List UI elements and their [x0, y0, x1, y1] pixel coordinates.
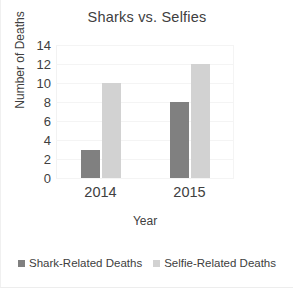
- y-axis-tick-label: 0: [29, 172, 51, 185]
- x-axis-title: Year: [56, 214, 234, 228]
- y-axis-tick-label: 14: [29, 39, 51, 52]
- bar-group: [56, 45, 234, 178]
- y-axis-tick-label: 10: [29, 77, 51, 90]
- x-axis-tick-labels: 20142015: [56, 184, 234, 206]
- y-axis-tick-labels: 14121086420: [25, 45, 51, 178]
- chart-title: Sharks vs. Selfies: [1, 9, 293, 25]
- chart-legend: Shark-Related DeathsSelfie-Related Death…: [1, 258, 293, 270]
- bar: [191, 64, 210, 178]
- plot-area: [56, 45, 234, 178]
- legend-swatch-icon: [18, 260, 25, 267]
- y-axis-tick-label: 4: [29, 134, 51, 147]
- x-axis-tick-label: 2015: [173, 184, 205, 200]
- legend-item[interactable]: Shark-Related Deaths: [18, 258, 142, 270]
- legend-item-label: Selfie-Related Deaths: [164, 258, 276, 270]
- x-axis-tick-label: 2014: [84, 184, 116, 200]
- gridline: [56, 178, 234, 179]
- legend-item-label: Shark-Related Deaths: [29, 258, 142, 270]
- bar: [170, 102, 189, 178]
- bar-chart: Sharks vs. Selfies Number of Deaths 1412…: [0, 0, 293, 288]
- y-axis-tick-label: 12: [29, 58, 51, 71]
- y-axis-tick-label: 8: [29, 96, 51, 109]
- legend-swatch-icon: [153, 260, 160, 267]
- y-axis-tick-label: 2: [29, 153, 51, 166]
- y-axis-tick-label: 6: [29, 115, 51, 128]
- legend-item[interactable]: Selfie-Related Deaths: [153, 258, 276, 270]
